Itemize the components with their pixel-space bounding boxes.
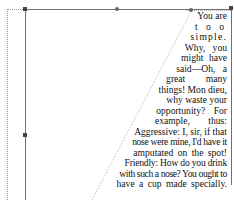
text-line: You are: [197, 11, 227, 22]
wrap-point-handle[interactable]: [189, 8, 193, 12]
text-line: have a cup made specially.: [117, 179, 227, 190]
text-line: might have: [181, 53, 227, 64]
resize-handle-top-left[interactable]: [23, 7, 27, 11]
text-line: simple.: [191, 32, 227, 43]
text-line: why waste your: [166, 95, 227, 106]
resize-handle-middle-left[interactable]: [23, 133, 27, 137]
text-line: Friendly: How do you drink: [125, 158, 227, 169]
text-line: example, thus:: [155, 116, 227, 127]
resize-handle-top-right[interactable]: [229, 6, 233, 10]
text-line: great many: [166, 74, 227, 85]
resize-handle-top-middle[interactable]: [115, 7, 119, 11]
document-canvas: You are t o o simple. Why, you might hav…: [0, 0, 234, 200]
text-line: nose were mine, I'd have it: [132, 137, 227, 148]
